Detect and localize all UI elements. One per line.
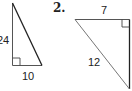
triangle-2-hypotenuse-label: 12 [88,56,100,68]
triangle-2: 7 12 [75,4,130,89]
triangle-1-right-angle-marker [13,58,21,66]
triangle-2-horizontal-leg-label: 7 [101,4,107,16]
triangle-2-right-angle-marker [122,20,130,28]
triangle-2-hypotenuse [75,20,130,90]
problem-2-number: 2. [53,1,66,15]
diagram-canvas: 24 10 2. 7 12 [0,0,132,91]
triangle-1-horizontal-leg-label: 10 [22,70,34,82]
triangle-1: 24 10 [0,3,42,82]
triangle-1-hypotenuse [13,3,43,66]
triangle-1-vertical-leg-label: 24 [0,34,9,46]
